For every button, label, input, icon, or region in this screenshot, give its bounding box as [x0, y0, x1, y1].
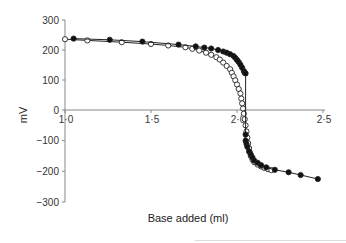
- divider: [195, 240, 346, 241]
- open-marker: [240, 106, 245, 111]
- x-tick-label: 1·0: [59, 114, 74, 125]
- open-marker: [240, 101, 245, 106]
- y-tick-label: −300: [36, 197, 59, 208]
- filled-marker: [193, 44, 198, 49]
- open-marker: [62, 37, 67, 42]
- y-tick-label: −200: [36, 166, 59, 177]
- x-axis-label: Base added (ml): [148, 212, 229, 224]
- y-tick-label: 100: [42, 75, 59, 86]
- filled-marker: [258, 163, 263, 168]
- y-axis-label: mV: [17, 106, 29, 123]
- filled-marker: [286, 170, 291, 175]
- filled-marker: [107, 37, 112, 42]
- y-tick-label: 200: [42, 45, 59, 56]
- axes: 3002001000−100−200−3001·01·52·02·5: [36, 15, 331, 208]
- x-tick-label: 1·5: [145, 114, 160, 125]
- filled-marker: [243, 71, 248, 76]
- titration-chart: 3002001000−100−200−3001·01·52·02·5 mV Ba…: [0, 0, 346, 243]
- filled-marker: [140, 39, 145, 44]
- filled-marker: [209, 46, 214, 51]
- filled-marker: [243, 132, 248, 137]
- y-tick-label: −100: [36, 135, 59, 146]
- filled-marker: [176, 42, 181, 47]
- open-marker: [242, 117, 247, 122]
- open-marker: [238, 91, 243, 96]
- y-tick-label: 300: [42, 15, 59, 26]
- filled-marker: [202, 45, 207, 50]
- filled-marker: [298, 172, 303, 177]
- open-marker: [203, 50, 208, 55]
- open-marker: [239, 96, 244, 101]
- filled-marker: [264, 165, 269, 170]
- filled-marker: [272, 167, 277, 172]
- x-tick-label: 2·5: [317, 114, 332, 125]
- series-line: [74, 39, 318, 179]
- series-filled-circles: [71, 36, 320, 182]
- filled-marker: [71, 36, 76, 41]
- filled-marker: [215, 47, 220, 52]
- series-open-circles: [62, 37, 274, 173]
- filled-marker: [315, 176, 320, 181]
- open-marker: [209, 52, 214, 57]
